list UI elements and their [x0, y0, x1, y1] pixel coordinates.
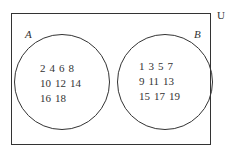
- set-a-elements: 2468 101214 1618: [40, 61, 85, 106]
- universe-label: U: [217, 9, 225, 21]
- set-b-label: B: [194, 28, 201, 40]
- set-a-label: A: [25, 28, 32, 40]
- set-b-elements: 1357 91113 151719: [139, 59, 184, 104]
